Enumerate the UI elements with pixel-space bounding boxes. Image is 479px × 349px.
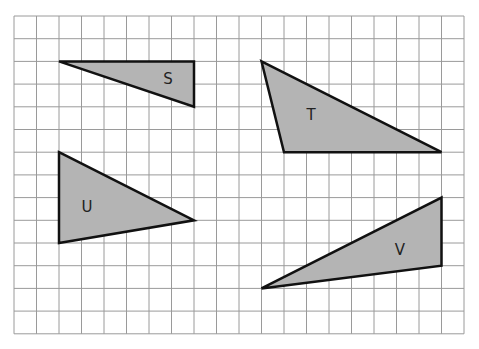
triangle-s-label: S bbox=[163, 70, 173, 88]
triangle-u-label: U bbox=[82, 198, 93, 216]
triangle-t-label: T bbox=[305, 106, 316, 124]
triangle-v-label: V bbox=[395, 241, 406, 259]
grid-diagram: S T U V bbox=[0, 0, 479, 349]
